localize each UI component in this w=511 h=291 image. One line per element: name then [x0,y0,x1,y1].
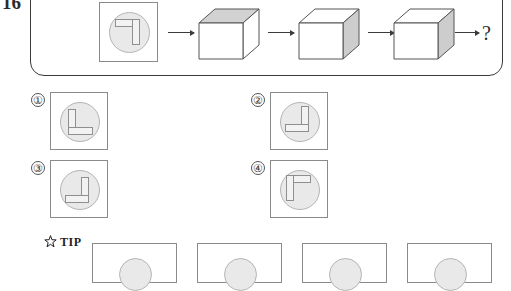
option-3-disc [60,170,100,210]
option-1-horizontal-bar [68,127,93,135]
star-icon [44,234,57,252]
option-4-tile[interactable] [270,160,328,218]
tip-tile-2-disc [224,258,257,291]
option-2-tile[interactable] [270,92,328,150]
cube-3 [392,7,456,61]
tip-tile-1[interactable] [92,243,177,283]
stem-start-tile [99,2,158,62]
option-2-label[interactable]: ② [251,93,265,107]
unknown-question-mark: ? [482,23,491,43]
giyeok-vertical-bar [132,19,140,45]
arrow-2 [268,32,294,33]
tip-tile-3[interactable] [302,243,387,283]
option-4-vertical-bar [286,175,294,201]
option-3-tile[interactable] [50,160,108,218]
option-2-horizontal-bar [285,124,309,132]
cube-2 [297,7,361,61]
tip-tile-3-disc [329,258,362,291]
tip-tile-2[interactable] [197,243,282,283]
arrow-3 [368,32,394,33]
cube-1 [197,7,261,61]
option-3-label[interactable]: ③ [31,161,45,175]
option-1-label[interactable]: ① [31,93,45,107]
question-number: 16 [2,0,21,13]
tip-label: TIP [60,235,82,250]
tip-tile-4[interactable] [407,243,492,283]
option-2-disc [280,102,320,142]
option-1-disc [60,102,100,142]
tip-tile-1-disc [119,258,152,291]
arrow-1 [168,32,194,33]
option-4-label[interactable]: ④ [251,161,265,175]
option-3-horizontal-bar [65,195,89,203]
arrow-4 [455,32,479,33]
option-1-tile[interactable] [50,92,108,150]
tip-tile-4-disc [434,258,467,291]
